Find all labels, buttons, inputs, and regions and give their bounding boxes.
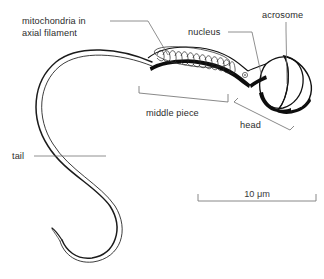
label-mitochondria: mitochondria in axial filament <box>22 16 168 55</box>
label-mitochondria-line2: axial filament <box>22 28 77 38</box>
bracket-middle-piece <box>139 86 228 102</box>
scale-bar-label: 10 μm <box>244 189 270 199</box>
label-nucleus-text: nucleus <box>188 27 221 37</box>
label-head-text: head <box>240 120 261 130</box>
sperm-cell-diagram: mitochondria in axial filament nucleus a… <box>0 0 324 279</box>
label-acrosome: acrosome <box>262 10 303 84</box>
scale-bar: 10 μm <box>198 189 316 201</box>
leader-acrosome <box>286 22 287 84</box>
acrosome-cap <box>277 56 311 114</box>
label-middle-piece: middle piece <box>139 86 228 118</box>
sperm-cell-drawing <box>36 43 311 262</box>
label-tail-text: tail <box>12 151 24 161</box>
leader-nucleus <box>228 32 262 78</box>
label-middle-piece-text: middle piece <box>146 108 199 118</box>
centriole-dot-icon <box>244 74 246 76</box>
label-mitochondria-line1: mitochondria in <box>22 16 86 26</box>
head-nucleus <box>259 57 303 112</box>
leader-mitochondria <box>110 21 168 55</box>
label-acrosome-text: acrosome <box>262 10 303 20</box>
